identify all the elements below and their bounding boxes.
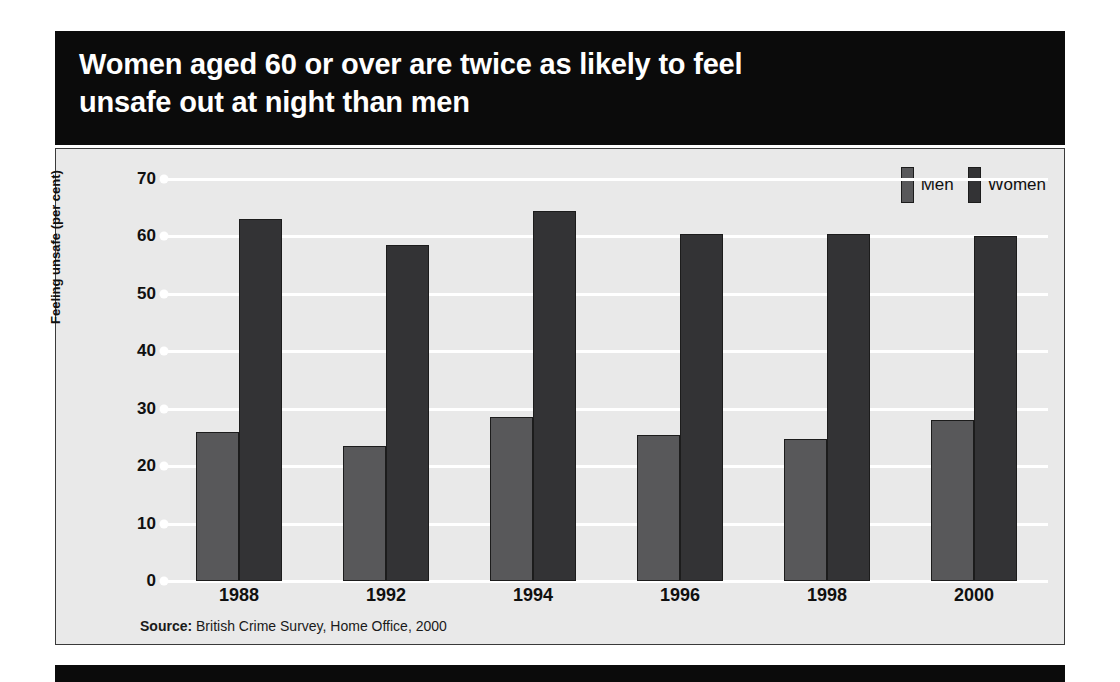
- bar-men-1998: [784, 439, 827, 581]
- y-axis-tick-label: 40: [122, 341, 156, 361]
- bar-women-1998: [827, 234, 870, 581]
- x-axis-tick-label-1998: 1998: [784, 585, 870, 606]
- gridline: [164, 408, 1048, 411]
- gridline: [164, 350, 1048, 353]
- y-axis-tick-label: 70: [122, 169, 156, 189]
- page-title-line-1: Women aged 60 or over are twice as likel…: [79, 45, 1041, 83]
- y-axis-tick-marker: [160, 519, 169, 528]
- x-axis-tick-label-1988: 1988: [196, 585, 282, 606]
- bottom-banner: [55, 665, 1065, 682]
- bar-men-1994: [490, 417, 533, 581]
- chart-panel: Men Women Feeling unsafe (per cent) 0102…: [55, 148, 1065, 645]
- bar-group: [196, 179, 282, 581]
- bar-women-1992: [386, 245, 429, 581]
- bar-group: [637, 179, 723, 581]
- bar-women-1996: [680, 234, 723, 581]
- plot-area: 198819921994199619982000: [164, 179, 1048, 581]
- gridline: [164, 235, 1048, 238]
- gridline: [164, 465, 1048, 468]
- y-axis-title: Feeling unsafe (per cent): [48, 24, 63, 324]
- x-axis-tick-label-1992: 1992: [343, 585, 429, 606]
- y-axis-tick-marker: [160, 347, 169, 356]
- title-banner: Women aged 60 or over are twice as likel…: [55, 31, 1065, 145]
- y-axis-tick-marker: [160, 577, 169, 586]
- bar-group: [931, 179, 1017, 581]
- bar-women-2000: [974, 236, 1017, 581]
- bar-men-1988: [196, 432, 239, 581]
- y-axis-tick-label: 0: [122, 571, 156, 591]
- gridline: [164, 580, 1048, 583]
- bar-women-1988: [239, 219, 282, 581]
- y-axis-tick-labels: 010203040506070: [116, 179, 156, 581]
- chart-page: Women aged 60 or over are twice as likel…: [0, 0, 1120, 682]
- y-axis-tick-marker: [160, 462, 169, 471]
- x-axis-tick-label-1996: 1996: [637, 585, 723, 606]
- page-title-line-2: unsafe out at night than men: [79, 83, 1041, 121]
- y-axis-tick-marker: [160, 404, 169, 413]
- y-axis-tick-label: 20: [122, 456, 156, 476]
- y-axis-tick-label: 10: [122, 514, 156, 534]
- gridline: [164, 178, 1048, 181]
- bar-men-1992: [343, 446, 386, 581]
- y-axis-tick-label: 30: [122, 399, 156, 419]
- y-axis-tick-marker: [160, 175, 169, 184]
- source-text: British Crime Survey, Home Office, 2000: [192, 618, 447, 634]
- gridline: [164, 293, 1048, 296]
- x-axis-tick-label-1994: 1994: [490, 585, 576, 606]
- y-axis-tick-label: 60: [122, 226, 156, 246]
- gridline: [164, 523, 1048, 526]
- source-label: Source:: [140, 618, 192, 634]
- y-axis-tick-label: 50: [122, 284, 156, 304]
- x-axis-tick-label-2000: 2000: [931, 585, 1017, 606]
- y-axis-tick-marker: [160, 289, 169, 298]
- bar-group: [784, 179, 870, 581]
- bar-group: [490, 179, 576, 581]
- bar-men-1996: [637, 435, 680, 581]
- bar-men-2000: [931, 420, 974, 581]
- bar-women-1994: [533, 211, 576, 581]
- source-note: Source: British Crime Survey, Home Offic…: [140, 618, 447, 634]
- bar-group: [343, 179, 429, 581]
- y-axis-tick-marker: [160, 232, 169, 241]
